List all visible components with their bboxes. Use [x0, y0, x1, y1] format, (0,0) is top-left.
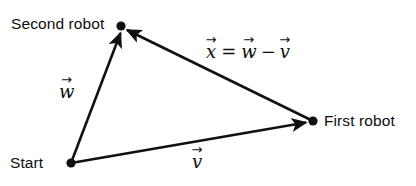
vector-label-v: →v [192, 153, 202, 171]
equation-lhs-x: →x [206, 43, 216, 61]
node-label-first-robot: First robot [324, 113, 395, 129]
vector-diagram: Second robot First robot Start →w →v →x=… [0, 0, 416, 186]
node-dot-first-robot [308, 116, 317, 125]
node-label-start: Start [10, 155, 43, 171]
vector-v-line [71, 123, 306, 164]
equation-minus-sign: − [257, 41, 280, 62]
vector-symbol-v: →v [192, 153, 202, 171]
vector-w-line [71, 33, 121, 163]
equation-equals-sign: = [216, 41, 241, 62]
node-dot-second-robot [116, 21, 125, 30]
vector-letter-w: w [59, 81, 74, 102]
equation-letter-w: w [241, 41, 256, 62]
vector-label-w: →w [59, 83, 74, 101]
node-dot-start [66, 158, 75, 167]
equation-letter-x: x [206, 41, 216, 62]
vector-letter-v: v [192, 151, 202, 172]
vector-symbol-w: →w [59, 83, 74, 101]
vector-equation: →x=→w−→v [206, 43, 290, 61]
equation-letter-v: v [280, 41, 290, 62]
equation-term-v: →v [280, 43, 290, 61]
node-label-second-robot: Second robot [11, 16, 104, 32]
equation-term-w: →w [241, 43, 256, 61]
